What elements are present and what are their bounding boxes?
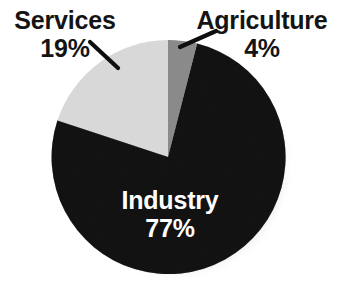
slice-label-agriculture-percent: 4%	[182, 34, 342, 62]
slice-label-industry-percent: 77%	[104, 214, 236, 242]
slice-label-agriculture-name: Agriculture	[182, 6, 342, 34]
slice-label-industry-name: Industry	[104, 186, 236, 214]
slice-label-services-name: Services	[6, 6, 124, 34]
slice-label-services: Services 19%	[6, 6, 124, 62]
slice-label-services-percent: 19%	[6, 34, 124, 62]
slice-label-agriculture: Agriculture 4%	[182, 6, 342, 62]
pie-chart-figure: Services 19% Agriculture 4% Industry 77%	[0, 0, 346, 286]
slice-label-industry: Industry 77%	[104, 186, 236, 242]
